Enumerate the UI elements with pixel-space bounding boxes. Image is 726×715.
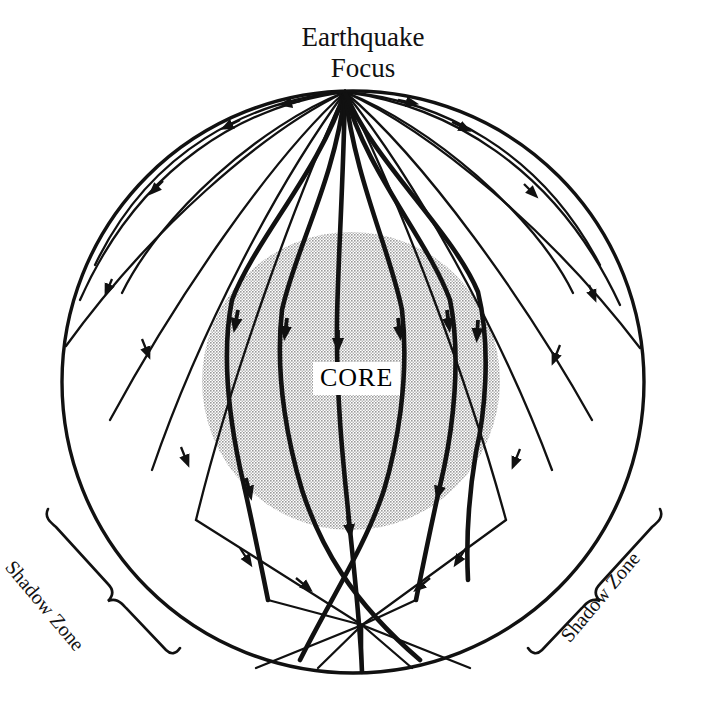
title-line-2: Focus xyxy=(331,53,396,83)
seismic-ray-diagram xyxy=(0,0,726,715)
diverging-ray-left xyxy=(318,625,362,668)
page-title: EarthquakeFocus xyxy=(0,22,726,84)
core-label: CORE xyxy=(313,362,400,395)
shadow-zone-brace-right xyxy=(528,509,661,653)
title-line-1: Earthquake xyxy=(302,22,425,52)
converging-ray-left xyxy=(268,600,362,625)
